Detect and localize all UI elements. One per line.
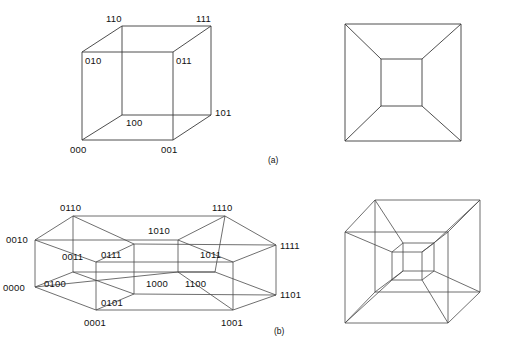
vertex-label: 010 (85, 56, 101, 66)
vertex-label: 110 (106, 14, 122, 24)
cube3-schlegel-edges (345, 24, 461, 141)
vertex-label: 0000 (3, 283, 25, 293)
vertex-label: 1111 (280, 241, 300, 251)
vertex-label: 1011 (200, 250, 221, 260)
vertex-label: 011 (176, 56, 192, 66)
vertex-label: 1110 (212, 203, 233, 213)
vertex-label: 001 (161, 145, 177, 155)
vertex-label: 101 (215, 108, 231, 118)
vertex-label: 0111 (101, 250, 122, 260)
figure-root: 110 111 010 011 100 101 000 001 0110 111… (0, 0, 508, 341)
cube4-schlegel-edges (345, 200, 480, 323)
vertex-label: 0001 (84, 318, 106, 328)
cube3-edges (82, 26, 211, 140)
vertex-label: 1100 (185, 279, 206, 289)
panel-caption-b: (b) (274, 327, 284, 336)
vertex-label: 0011 (62, 252, 83, 262)
vertex-label: 100 (126, 118, 142, 128)
vertex-label: 1001 (221, 318, 243, 328)
vertex-label: 000 (70, 145, 86, 155)
vertex-label: 0100 (44, 279, 66, 289)
vertex-label: 1101 (280, 290, 301, 300)
vertex-label: 111 (196, 14, 211, 24)
vertex-label: 0010 (6, 235, 28, 245)
panel-caption-a: (a) (268, 156, 278, 165)
figure-line-art (0, 0, 508, 341)
vertex-label: 1010 (148, 226, 170, 236)
vertex-label: 0101 (101, 298, 123, 308)
vertex-label: 0110 (60, 203, 81, 213)
vertex-label: 1000 (146, 279, 168, 289)
